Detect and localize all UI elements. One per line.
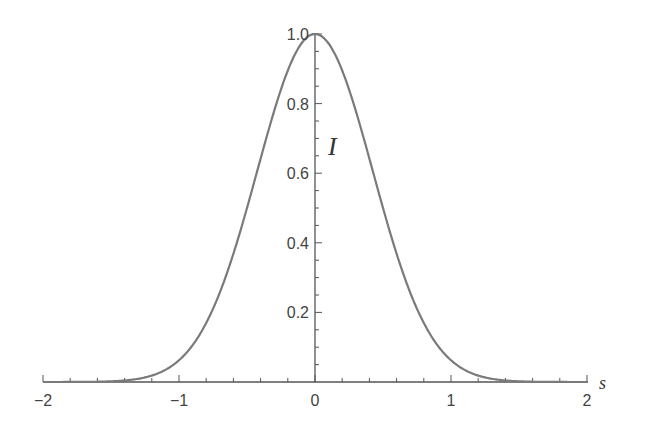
y-tick-labels: 0.20.40.60.81.0 <box>287 26 309 321</box>
y-axis-ticks <box>315 34 322 365</box>
x-axis-label: s <box>599 373 606 393</box>
y-tick-label: 0.4 <box>287 235 309 252</box>
x-tick-label: 2 <box>583 392 592 409</box>
x-tick-label: 0 <box>311 392 320 409</box>
x-tick-labels: −2−1012 <box>34 392 592 409</box>
x-tick-label: −2 <box>34 392 52 409</box>
y-axis-label: I <box>327 132 338 161</box>
y-tick-label: 0.6 <box>287 165 309 182</box>
y-tick-label: 1.0 <box>287 26 309 43</box>
y-tick-label: 0.8 <box>287 96 309 113</box>
x-tick-label: 1 <box>447 392 456 409</box>
x-tick-label: −1 <box>170 392 188 409</box>
y-tick-label: 0.2 <box>287 304 309 321</box>
chart: −2−1012 0.20.40.60.81.0 s I <box>0 0 645 433</box>
